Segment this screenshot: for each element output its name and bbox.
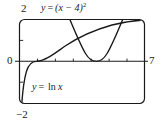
parabola-label-exponent: 2 bbox=[83, 1, 86, 8]
parabola-label-equals: = bbox=[47, 2, 53, 13]
y-axis-max-label: 2 bbox=[21, 3, 27, 14]
graph-figure: 2 0 −2 7 y=(x − 4)2 y=lnx bbox=[0, 0, 163, 124]
log-label-fn: ln bbox=[48, 81, 56, 92]
parabola-label-base: (x − 4) bbox=[55, 2, 83, 13]
parabola-equation-label: y=(x − 4)2 bbox=[41, 3, 86, 13]
log-label-equals: = bbox=[38, 81, 44, 92]
log-label-lhs: y bbox=[32, 81, 36, 92]
y-axis-zero-label: 0 bbox=[7, 55, 13, 66]
parabola-label-lhs: y bbox=[41, 2, 45, 13]
y-axis-min-label: −2 bbox=[16, 109, 28, 120]
log-label-arg: x bbox=[58, 81, 62, 92]
x-axis-max-label: 7 bbox=[149, 55, 155, 66]
log-equation-label: y=lnx bbox=[32, 82, 62, 92]
plot-area bbox=[0, 0, 163, 124]
